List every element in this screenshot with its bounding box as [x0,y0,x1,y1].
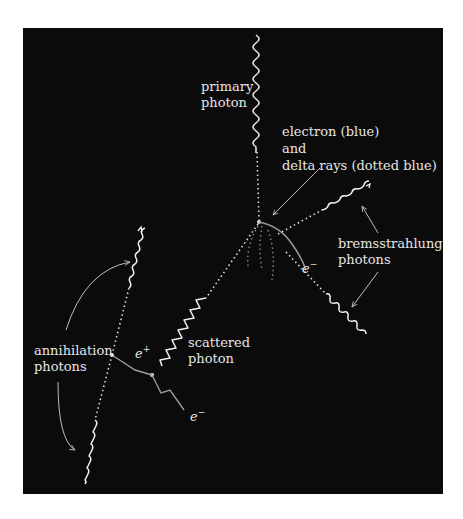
annihilation-photon-up-dotted [112,288,129,355]
electron-symbol-1-sign: − [310,259,318,269]
brems-photon-1-wave [322,181,369,210]
annihilation-annotation-arrow-down [58,382,75,450]
scattered-photon-label-line-1: scattered [188,335,250,351]
annihilation-label-line-2: photons [34,359,113,375]
scattered-photon-dotted [206,224,258,298]
electron-delta-label: electron (blue) and delta rays (dotted b… [282,123,437,174]
annihilation-photon-down-wave [85,420,97,484]
bremsstrahlung-label-line-1: bremsstrahlung [338,236,443,252]
electron-symbol-1-letter: e [302,261,310,276]
delta-ray-2 [268,230,273,280]
annihilation-photon-up-wave [129,228,145,288]
brems-photon-2-wave [326,294,366,334]
annihilation-label: annihilation photons [34,343,113,375]
electron-track [259,222,306,270]
electron-delta-label-line-1: electron (blue) [282,123,437,140]
brems-photon-1-dotted [278,210,322,234]
primary-photon-label-line-2: photon [201,95,253,111]
electron-annotation-arrow [273,168,320,215]
positron-symbol: e+ [135,341,150,362]
scattered-photon-label: scattered photon [188,335,250,367]
positron-symbol-sign: + [143,344,151,354]
electron-symbol-2-sign: − [198,407,206,417]
scattered-photon-label-line-2: photon [188,351,250,367]
delta-ray-1 [260,226,262,270]
electron-symbol-2-letter: e [190,409,198,424]
electron-delta-label-line-3: delta rays (dotted blue) [282,157,437,174]
electron-2-track [152,375,184,410]
brems-annotation-arrow-down [352,272,378,307]
primary-photon-wave [253,35,259,153]
primary-photon-dotted [257,152,259,221]
electron-symbol-2: e− [190,404,205,425]
electron-delta-label-line-2: and [282,140,437,157]
primary-photon-label-line-1: primary [201,79,253,95]
electron-symbol-1: e− [302,256,317,277]
bremsstrahlung-label: bremsstrahlung photons [338,236,443,268]
primary-photon-label: primary photon [201,79,253,111]
brems-photon-1-arrow-icon [366,184,370,188]
positron-symbol-letter: e [135,346,143,361]
annihilation-label-line-1: annihilation [34,343,113,359]
brems-annotation-arrow-up [362,206,378,233]
annihilation-photon-up-arrow-icon [138,227,142,232]
bremsstrahlung-label-line-2: photons [338,252,443,268]
